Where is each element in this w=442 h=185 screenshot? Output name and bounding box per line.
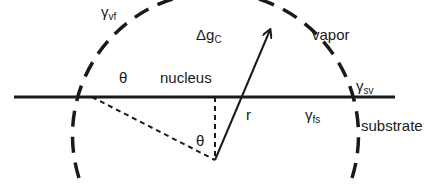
substrate-label: substrate [361,117,423,134]
contact-to-center-dashed-line [92,97,215,160]
gamma-vf-label: γvf [101,3,117,22]
radius-label: r [246,106,251,123]
nucleation-diagram: γvf ΔgC vapor θ nucleus γsv r γfs substr… [0,0,442,185]
delta-g-label: ΔgC [196,26,222,45]
theta-contact-label: θ [119,69,127,86]
radius-arrow [215,30,270,160]
vapor-label: vapor [312,26,350,43]
gamma-fs-label: γfs [305,106,320,125]
theta-center-label: θ [196,132,204,149]
gamma-sv-label: γsv [356,77,374,96]
nucleus-label: nucleus [160,69,212,86]
